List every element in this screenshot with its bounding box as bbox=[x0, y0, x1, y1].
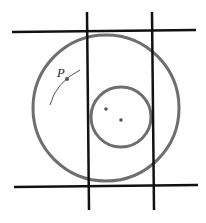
arc-through-p bbox=[50, 70, 80, 105]
point-p bbox=[65, 77, 69, 81]
left-vertical-line bbox=[87, 12, 89, 210]
center-point-1 bbox=[104, 107, 108, 111]
geometry-diagram: P bbox=[0, 0, 206, 223]
bottom-horizontal-line bbox=[14, 185, 198, 187]
small-circle bbox=[91, 87, 151, 147]
top-horizontal-line bbox=[12, 30, 196, 32]
center-point-2 bbox=[119, 118, 123, 122]
label-p: P bbox=[56, 67, 65, 80]
right-vertical-line bbox=[152, 12, 154, 210]
